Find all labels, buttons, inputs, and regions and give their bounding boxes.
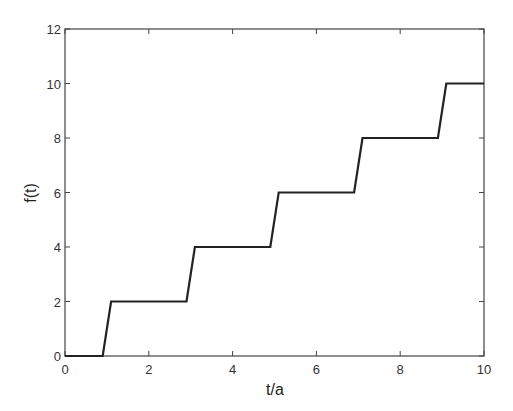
- y-tick-label: 6: [54, 186, 61, 201]
- x-tick-label: 10: [477, 362, 491, 377]
- plot-area: [65, 29, 484, 356]
- axis-ticks: 0246810024681012: [47, 22, 492, 377]
- data-series: [65, 84, 484, 357]
- y-tick-label: 2: [54, 295, 61, 310]
- axes-frame: [65, 29, 484, 356]
- x-tick-label: 0: [61, 362, 68, 377]
- y-tick-label: 4: [54, 240, 61, 255]
- x-tick-label: 6: [313, 362, 320, 377]
- y-tick-label: 0: [54, 349, 61, 364]
- y-tick-label: 12: [47, 22, 61, 37]
- x-tick-label: 2: [145, 362, 152, 377]
- y-axis-label: f(t): [22, 183, 39, 203]
- x-tick-label: 8: [397, 362, 404, 377]
- y-tick-label: 10: [47, 77, 61, 92]
- step-function-chart: 0246810024681012 t/a f(t): [0, 0, 513, 411]
- x-axis-label: t/a: [266, 381, 284, 398]
- step-line: [65, 84, 484, 357]
- y-tick-label: 8: [54, 131, 61, 146]
- x-tick-label: 4: [229, 362, 236, 377]
